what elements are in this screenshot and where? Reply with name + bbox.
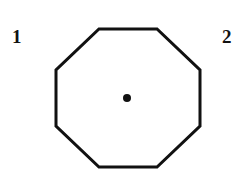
center-dot-icon (123, 94, 131, 102)
octagon-diagram (0, 0, 242, 184)
